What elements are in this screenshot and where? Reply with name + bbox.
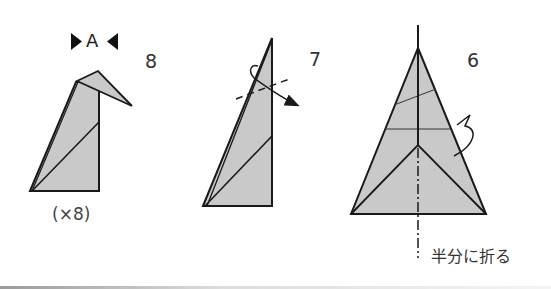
step-7-figure: [203, 38, 297, 206]
step-6-figure: [351, 25, 486, 258]
step-number-8: 8: [145, 50, 157, 72]
origami-diagram: A 8 (×8) 7 6 半分に折る: [0, 0, 551, 289]
fold-in-half-caption: 半分に折る: [431, 243, 511, 267]
step-number-7: 7: [309, 48, 321, 70]
step-number-6: 6: [467, 49, 479, 71]
reference-mark-A-label: A: [86, 30, 98, 51]
step-8-figure: [30, 33, 132, 191]
repeat-note: (×8): [52, 204, 90, 224]
